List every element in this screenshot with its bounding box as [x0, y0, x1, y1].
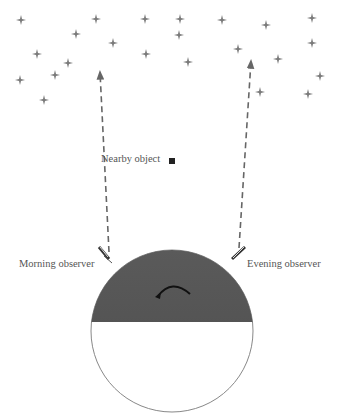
- star-icon: [15, 75, 25, 85]
- morning-observer-label: Morning observer: [19, 258, 95, 269]
- star-icon: [233, 44, 243, 54]
- star-icon: [16, 15, 26, 25]
- evening-telescope-icon: [232, 247, 245, 259]
- star-icon: [217, 15, 227, 25]
- star-icon: [32, 49, 42, 59]
- nearby-object-label: Nearby object: [101, 153, 160, 164]
- star-icon: [91, 14, 101, 24]
- star-icon: [63, 58, 73, 68]
- star-icon: [183, 57, 193, 67]
- star-field: [15, 13, 325, 105]
- star-icon: [175, 14, 185, 24]
- evening-observer-label: Evening observer: [247, 258, 321, 269]
- parallax-diagram: [0, 0, 340, 417]
- evening-sight-line: [239, 61, 251, 248]
- nearby-object-marker: [169, 158, 175, 164]
- star-icon: [255, 87, 265, 97]
- star-icon: [315, 71, 325, 81]
- morning-telescope-icon: [99, 247, 112, 263]
- star-icon: [50, 70, 60, 80]
- star-icon: [71, 29, 81, 39]
- star-icon: [174, 30, 184, 40]
- star-icon: [261, 20, 271, 30]
- star-icon: [307, 13, 317, 23]
- earth: [91, 250, 253, 412]
- star-icon: [141, 49, 151, 59]
- star-icon: [108, 38, 118, 48]
- star-icon: [140, 14, 150, 24]
- star-icon: [273, 54, 283, 64]
- star-icon: [307, 38, 317, 48]
- star-icon: [39, 95, 49, 105]
- star-icon: [303, 89, 313, 99]
